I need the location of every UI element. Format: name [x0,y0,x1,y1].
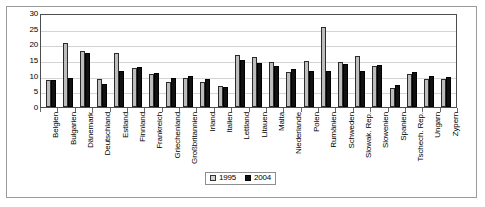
bar-2004 [429,76,434,107]
x-axis-label-gro-britannien: Großbritannien [191,112,199,174]
bar-group [59,15,76,107]
x-axis-label-frankreich: Frankreich [156,112,164,174]
x-axis-category-labels: BelgienBulgarienDänemarkDeutschlandEstla… [40,112,457,174]
bar-2004 [395,85,400,107]
bar-2004 [240,60,245,107]
bar-2004 [137,67,142,107]
x-axis-label-deutschland: Deutschland [104,112,112,174]
bar-2004 [223,87,228,107]
y-axis-tick-20: 20 [30,41,39,49]
bar-2004 [412,72,417,107]
y-axis-tick-5: 5 [34,88,38,96]
bar-group [162,15,179,107]
bar-2004 [188,76,193,107]
legend-swatch-2004-icon [245,175,251,181]
x-axis-label-griechenland: Griechenland [174,112,182,174]
bar-group [334,15,351,107]
bar-group [300,15,317,107]
x-axis-label-slowak-rep: Slowak. Rep. [365,112,373,174]
bar-groups [41,15,456,107]
bar-2004 [68,78,73,107]
bar-group [42,15,59,107]
x-axis-label-litauen: Litauen [261,112,269,174]
bar-group [145,15,162,107]
x-axis-label-spanien: Spanien [400,112,408,174]
x-axis-label-slowenien: Slowenien [382,112,390,174]
bar-2004 [343,64,348,107]
legend-swatch-1995-icon [210,175,216,181]
bar-2004 [377,65,382,107]
x-axis-label-d-nemark: Dänemark [87,112,95,174]
bar-group [111,15,128,107]
bar-group [197,15,214,107]
y-axis-tick-25: 25 [30,26,39,34]
legend-item-2004: 2004 [245,174,271,182]
bar-group [352,15,369,107]
bar-group [94,15,111,107]
bar-group [438,15,455,107]
legend-item-1995: 1995 [210,174,236,182]
x-axis-label-belgien: Belgien [52,112,60,174]
bar-2004 [309,71,314,107]
plot-area [40,14,457,108]
bar-2004 [102,84,107,107]
bar-group [76,15,93,107]
chart-screenshot: 051015202530 BelgienBulgarienDänemarkDeu… [0,0,485,207]
x-axis-label-ungarn: Ungarn [434,112,442,174]
x-axis-label-schweden: Schweden [348,112,356,174]
x-axis-label-tschech-rep: Tschech. Rep. [417,112,425,174]
y-axis-tick-10: 10 [30,73,39,81]
bar-group [403,15,420,107]
bar-group [386,15,403,107]
bar-group [266,15,283,107]
bar-2004 [85,53,90,107]
x-axis-label-irland: Irland [209,112,217,174]
bar-2004 [326,71,331,107]
bar-2004 [205,79,210,107]
x-axis-label-bulgarien: Bulgarien [70,112,78,174]
legend-label-1995: 1995 [219,174,236,182]
bar-group [231,15,248,107]
bar-group [214,15,231,107]
bar-group [248,15,265,107]
y-axis-tick-labels: 051015202530 [12,14,38,108]
bar-2004 [291,69,296,107]
y-axis-tick-15: 15 [30,57,39,65]
x-axis-label-zypern: Zypern [452,112,460,174]
x-axis-label-italien: Italien [226,112,234,174]
chart-legend: 1995 2004 [205,172,276,185]
bar-2004 [171,78,176,107]
x-axis-label-polen: Polen [313,112,321,174]
bar-group [369,15,386,107]
x-axis-label-niederlande: Niederlande [295,112,303,174]
x-axis-label-lettland: Lettland [243,112,251,174]
x-axis-label-finnland: Finnland [139,112,147,174]
bar-group [283,15,300,107]
bar-group [420,15,437,107]
x-axis-label-malta: Malta [278,112,286,174]
y-axis-tick-30: 30 [30,10,39,18]
bar-2004 [360,71,365,107]
y-axis-tick-0: 0 [34,104,38,112]
bar-group [128,15,145,107]
x-axis-label-rum-nien: Rumänien [330,112,338,174]
legend-label-2004: 2004 [254,174,271,182]
x-axis-label-estland: Estland [122,112,130,174]
bar-2004 [119,71,124,107]
bar-2004 [257,63,262,107]
bar-group [317,15,334,107]
bar-2004 [274,66,279,107]
bar-2004 [154,73,159,107]
bar-2004 [51,80,56,107]
bar-group [180,15,197,107]
bar-2004 [446,77,451,107]
